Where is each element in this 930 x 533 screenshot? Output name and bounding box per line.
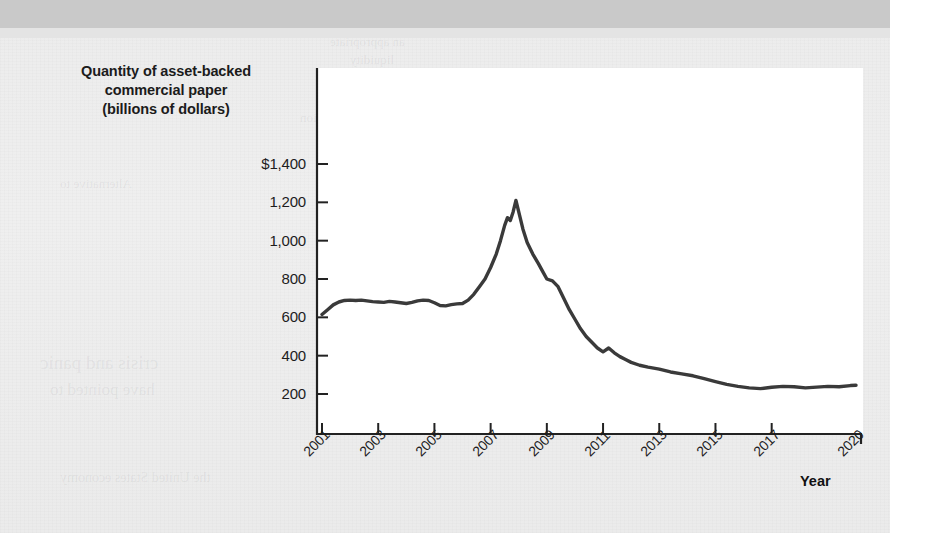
y-axis-tick-label: $1,400 xyxy=(232,155,306,172)
y-axis-ticks xyxy=(317,164,328,394)
y-axis-tick-label: 400 xyxy=(232,347,306,364)
y-axis-tick-label: 1,200 xyxy=(232,193,306,210)
chart-line-series xyxy=(322,200,856,388)
y-axis-tick-label: 1,000 xyxy=(232,232,306,249)
y-axis-tick-label: 800 xyxy=(232,270,306,287)
chart-series-lines xyxy=(322,200,856,388)
y-axis-tick-label: 600 xyxy=(232,308,306,325)
chart-svg xyxy=(0,0,930,533)
y-axis-tick-label: 200 xyxy=(232,385,306,402)
